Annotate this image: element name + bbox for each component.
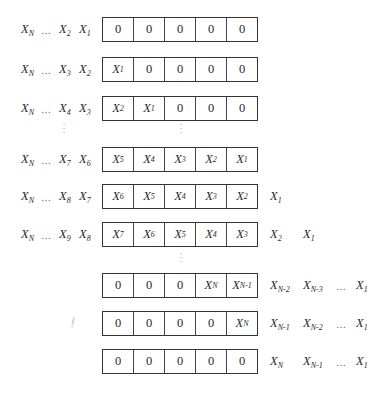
register: X5X4X3X2X1 <box>102 147 258 172</box>
subscript: 5 <box>120 155 124 164</box>
subscript: 6 <box>87 159 91 168</box>
subscript: 1 <box>120 65 124 74</box>
register: 00000 <box>102 349 258 374</box>
register-cell: 0 <box>134 274 165 297</box>
input-symbol: X4 <box>59 101 79 117</box>
vertical-ellipsis-register-bottom: ··· <box>179 251 183 263</box>
register-row: XN…X9X8X7X6X5X4X3X2X1 <box>0 222 387 248</box>
register-row: 00000XNXN-1…X1 <box>0 349 387 375</box>
register: X2X1000 <box>102 96 258 121</box>
output-symbol: XN-3 <box>303 278 336 294</box>
register-row: 000XNXN-1XN-2XN-3…X1 <box>0 273 387 299</box>
subscript: 4 <box>213 230 217 239</box>
subscript: 3 <box>182 155 186 164</box>
output-symbol: X1 <box>303 227 336 243</box>
register-cell: X2 <box>103 97 134 120</box>
subscript: 3 <box>244 230 248 239</box>
input-symbol: X7 <box>79 189 99 205</box>
register-cell: 0 <box>165 274 196 297</box>
subscript: 2 <box>87 69 91 78</box>
register-cell: 0 <box>103 350 134 373</box>
register-cell: 0 <box>134 350 165 373</box>
input-symbol: XN <box>21 62 41 78</box>
register-cell: 0 <box>196 350 227 373</box>
register-cell: 0 <box>165 58 196 81</box>
subscript: 5 <box>182 230 186 239</box>
register-row: XN…X4X3X2X1000 <box>0 96 387 122</box>
subscript: 9 <box>67 234 71 243</box>
input-symbol: X1 <box>79 22 99 38</box>
input-sequence: XN…X2X1 <box>21 17 99 43</box>
input-sequence: XN…X3X2 <box>21 57 99 83</box>
register-cell: 0 <box>165 350 196 373</box>
input-sequence: XN…X9X8 <box>21 222 99 248</box>
output-symbol: XN <box>270 354 303 370</box>
vertical-ellipsis-register-top: ··· <box>179 122 183 134</box>
register-cell: XN <box>196 274 227 297</box>
subscript: N <box>29 234 34 243</box>
subscript: N-2 <box>278 285 290 294</box>
subscript: N <box>29 159 34 168</box>
subscript: N-3 <box>311 285 323 294</box>
register: X10000 <box>102 57 258 82</box>
input-symbol: XN <box>21 227 41 243</box>
register-cell: X4 <box>196 223 227 246</box>
input-symbol: XN <box>21 189 41 205</box>
ellipsis: … <box>336 357 356 368</box>
output-symbol: XN-1 <box>270 316 303 332</box>
register-cell: 0 <box>103 274 134 297</box>
subscript: 4 <box>182 192 186 201</box>
register-cell: 0 <box>196 58 227 81</box>
register-cell: 0 <box>196 312 227 335</box>
output-symbol: X1 <box>356 278 387 294</box>
subscript: 3 <box>87 108 91 117</box>
input-symbol: X2 <box>79 62 99 78</box>
output-symbol: X1 <box>270 189 303 205</box>
subscript: N-1 <box>278 323 290 332</box>
output-symbol: X2 <box>270 227 303 243</box>
register-cell: 0 <box>165 97 196 120</box>
ellipsis: … <box>41 155 59 166</box>
register-cell: X3 <box>196 185 227 208</box>
subscript: N <box>29 108 34 117</box>
subscript: N <box>278 361 283 370</box>
register-cell: X1 <box>227 148 257 171</box>
ellipsis: … <box>41 104 59 115</box>
register-cell: 0 <box>134 18 165 41</box>
output-symbol: XN-2 <box>303 316 336 332</box>
register-cell: 0 <box>227 350 257 373</box>
subscript: 3 <box>67 69 71 78</box>
input-symbol: X3 <box>79 101 99 117</box>
register-cell: X5 <box>165 223 196 246</box>
output-symbol: X1 <box>356 354 387 370</box>
input-symbol: X8 <box>79 227 99 243</box>
ellipsis: … <box>41 230 59 241</box>
register: X6X5X4X3X2 <box>102 184 258 209</box>
register-cell: X1 <box>103 58 134 81</box>
register-row: XN…X3X2X10000 <box>0 57 387 83</box>
register-cell: 0 <box>227 97 257 120</box>
subscript: 8 <box>67 196 71 205</box>
subscript: 5 <box>151 192 155 201</box>
register-cell: 0 <box>134 312 165 335</box>
register: 0000XN <box>102 311 258 336</box>
subscript: 4 <box>67 108 71 117</box>
input-symbol: XN <box>21 152 41 168</box>
subscript: 7 <box>87 196 91 205</box>
vertical-ellipsis-input: ··· <box>62 122 66 134</box>
subscript: N <box>212 281 217 290</box>
register-cell: 0 <box>196 18 227 41</box>
subscript: 1 <box>278 196 282 205</box>
subscript: N <box>29 69 34 78</box>
subscript: 7 <box>120 230 124 239</box>
subscript: 1 <box>87 29 91 38</box>
register-cell: XN <box>227 312 257 335</box>
register-cell: 0 <box>227 18 257 41</box>
register-cell: X7 <box>103 223 134 246</box>
register-cell: X4 <box>165 185 196 208</box>
input-symbol: XN <box>21 22 41 38</box>
register-cell: X2 <box>227 185 257 208</box>
register-cell: X5 <box>103 148 134 171</box>
input-symbol: XN <box>21 101 41 117</box>
subscript: N-2 <box>311 323 323 332</box>
